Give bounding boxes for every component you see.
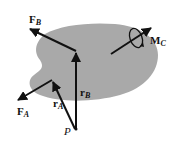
- diagram-canvas: FB MC rB rA FA P: [0, 0, 175, 147]
- point-p-dot: [75, 128, 78, 131]
- label-point-p: P: [63, 125, 71, 137]
- label-force-a: FA: [17, 105, 30, 119]
- label-moment: MC: [150, 34, 166, 48]
- label-force-b: FB: [29, 13, 42, 27]
